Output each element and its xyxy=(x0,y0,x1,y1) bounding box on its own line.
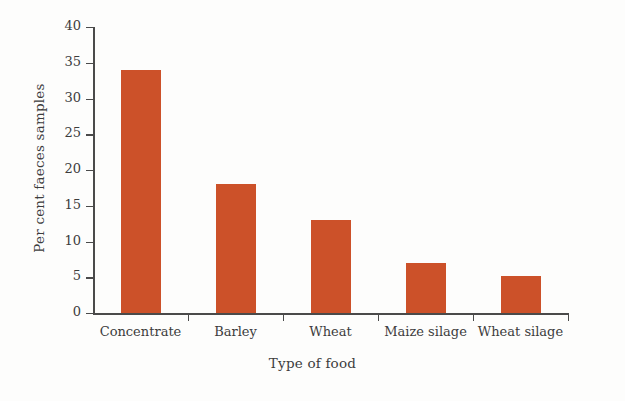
y-axis-tick: 40 xyxy=(86,27,93,28)
y-axis-tick: 15 xyxy=(86,206,93,207)
bar-chart-figure: Per cent faeces samples 0510152025303540… xyxy=(0,0,625,401)
x-axis-tick xyxy=(188,313,189,321)
bar xyxy=(406,263,446,313)
x-axis-tick xyxy=(568,313,569,321)
y-axis-tick: 30 xyxy=(86,99,93,100)
x-axis-tick xyxy=(378,313,379,321)
x-axis-tick xyxy=(283,313,284,321)
y-axis-tick: 0 xyxy=(86,313,93,314)
bar xyxy=(121,70,161,313)
y-axis-tick: 35 xyxy=(86,63,93,64)
x-axis-category-label: Wheat xyxy=(309,324,351,339)
bar xyxy=(216,184,256,313)
y-axis-tick-label: 15 xyxy=(64,197,81,212)
x-axis-category-label: Wheat silage xyxy=(478,324,563,339)
y-axis-tick-label: 5 xyxy=(73,268,81,283)
y-axis-tick-label: 20 xyxy=(64,161,81,176)
y-axis-tick-label: 25 xyxy=(64,125,81,140)
x-axis-title: Type of food xyxy=(0,355,625,371)
x-axis-category-label: Concentrate xyxy=(100,324,182,339)
x-axis-category-label: Maize silage xyxy=(384,324,467,339)
x-axis-category-label: Barley xyxy=(214,324,257,339)
bar xyxy=(501,276,541,313)
y-axis-tick: 5 xyxy=(86,277,93,278)
y-axis-tick-label: 40 xyxy=(64,18,81,33)
y-axis-tick: 20 xyxy=(86,170,93,171)
y-axis-tick-label: 30 xyxy=(64,90,81,105)
y-axis-tick-label: 0 xyxy=(73,304,81,319)
y-axis-tick: 10 xyxy=(86,242,93,243)
plot-area: 0510152025303540ConcentrateBarleyWheatMa… xyxy=(93,27,568,313)
y-axis-tick-label: 35 xyxy=(64,54,81,69)
y-axis-title: Per cent faeces samples xyxy=(26,0,52,338)
y-axis-tick-label: 10 xyxy=(64,233,81,248)
bar xyxy=(311,220,351,313)
x-axis-line xyxy=(93,313,568,315)
y-axis-tick: 25 xyxy=(86,134,93,135)
y-axis-line xyxy=(93,27,95,313)
x-axis-tick xyxy=(473,313,474,321)
